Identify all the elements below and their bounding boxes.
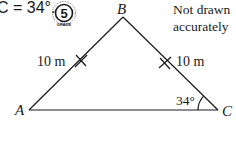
tick-mark-ab-icon xyxy=(75,55,87,67)
isosceles-triangle xyxy=(0,0,236,141)
vertex-label-a: A xyxy=(15,103,24,118)
side-label-ab: 10 m xyxy=(37,55,65,69)
side-label-bc: 10 m xyxy=(176,55,204,69)
angle-arc-c-icon xyxy=(198,96,204,110)
angle-label-c: 34° xyxy=(176,94,195,108)
vertex-label-c: C xyxy=(222,104,232,119)
vertex-label-b: B xyxy=(117,2,126,17)
